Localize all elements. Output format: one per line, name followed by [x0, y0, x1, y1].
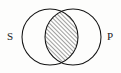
venn-diagram-figure: S P [0, 0, 121, 73]
venn-diagram-canvas: S P [0, 0, 121, 73]
set-label-s: S [7, 30, 13, 42]
set-label-p: P [107, 30, 113, 42]
